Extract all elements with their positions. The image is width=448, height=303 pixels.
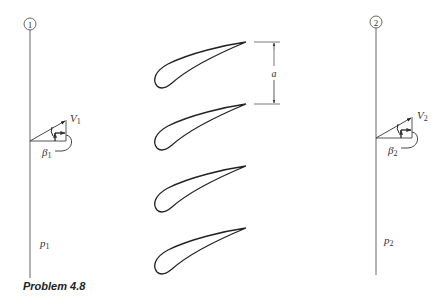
pressure-label-1: p1 — [39, 237, 50, 251]
angle-arc-1 — [55, 135, 72, 151]
station-2: 2 V2 β2 p2 — [370, 16, 428, 275]
cascade-diagram: 1 V1 β1 p1 2 — [0, 0, 448, 303]
figure-caption: Problem 4.8 — [23, 280, 85, 292]
blade-cascade — [155, 42, 246, 274]
station-2-marker-label: 2 — [374, 18, 379, 28]
angle-label-2: β2 — [387, 144, 397, 158]
blade-2 — [155, 104, 246, 150]
blade-4 — [155, 228, 246, 274]
spacing-label: a — [272, 68, 277, 79]
velocity-triangle-1 — [30, 120, 72, 151]
velocity-triangle-2 — [376, 117, 418, 148]
velocity-label-2: V2 — [417, 109, 428, 123]
pressure-label-2: p2 — [383, 234, 394, 248]
blade-1 — [155, 42, 246, 88]
station-1: 1 V1 β1 p1 — [24, 18, 81, 278]
blade-3 — [155, 166, 246, 212]
angle-arc-2 — [401, 132, 418, 148]
velocity-vector-2 — [376, 118, 411, 138]
spacing-dimension: a — [254, 42, 280, 104]
velocity-vector-1 — [30, 121, 65, 141]
angle-label-1: β1 — [41, 146, 51, 160]
velocity-label-1: V1 — [70, 112, 81, 126]
station-1-marker-label: 1 — [28, 20, 33, 30]
